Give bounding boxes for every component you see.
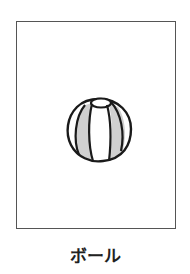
caption-label: ボール <box>0 242 190 267</box>
beach-ball-icon <box>63 95 135 165</box>
